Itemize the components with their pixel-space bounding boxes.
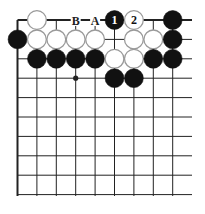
white-stone bbox=[124, 49, 143, 68]
black-stone: 1 bbox=[105, 11, 124, 30]
star-points bbox=[73, 76, 78, 81]
black-stone bbox=[28, 49, 47, 68]
white-stone bbox=[66, 30, 85, 49]
white-stone bbox=[28, 11, 47, 30]
black-stone bbox=[8, 30, 27, 49]
white-stone bbox=[47, 30, 66, 49]
go-board: BA 12 bbox=[0, 0, 205, 214]
black-stone bbox=[163, 49, 182, 68]
white-stone bbox=[144, 30, 163, 49]
black-stone bbox=[86, 49, 105, 68]
star-point bbox=[73, 76, 78, 81]
black-stone bbox=[163, 11, 182, 30]
black-stone bbox=[124, 69, 143, 88]
white-stone bbox=[86, 30, 105, 49]
move-number: 2 bbox=[131, 13, 137, 27]
black-stone bbox=[47, 49, 66, 68]
move-number: 1 bbox=[112, 13, 118, 27]
white-stone bbox=[28, 30, 47, 49]
black-stone bbox=[105, 69, 124, 88]
white-stone bbox=[105, 49, 124, 68]
point-label-a: A bbox=[91, 14, 100, 28]
black-stone bbox=[144, 49, 163, 68]
white-stone: 2 bbox=[124, 11, 143, 30]
point-label-b: B bbox=[72, 14, 80, 28]
black-stone bbox=[66, 49, 85, 68]
white-stone bbox=[124, 30, 143, 49]
black-stone bbox=[163, 30, 182, 49]
